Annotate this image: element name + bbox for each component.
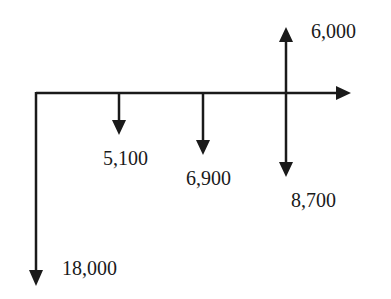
flow-label-6000: 6,000 [311,21,356,41]
flow-label-6900: 6,900 [186,168,231,188]
arrowhead-up-icon [279,27,293,42]
timeline-arrowhead-icon [336,86,351,100]
flow-label-5100: 5,100 [103,148,148,168]
arrowhead-down-icon [196,140,210,155]
arrowhead-down-icon [112,120,126,135]
cash-flow-diagram [0,0,391,299]
flow-label-8700: 8,700 [291,190,336,210]
arrowhead-down-icon [279,162,293,177]
flow-label-18000: 18,000 [62,258,117,278]
arrowhead-down-icon [29,270,43,286]
